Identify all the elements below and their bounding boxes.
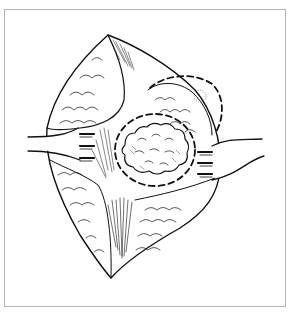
lower-left-flap [50,160,111,278]
dashed-resection-margin [115,114,195,186]
lower-right-flap [135,178,215,250]
surgical-illustration [0,0,292,316]
upper-left-flap [47,35,134,130]
lobulated-mass [122,123,189,174]
upper-right-flap [148,83,212,135]
retractor-right [198,139,264,180]
cavity-shading [92,128,132,258]
retractor-left [28,128,94,161]
